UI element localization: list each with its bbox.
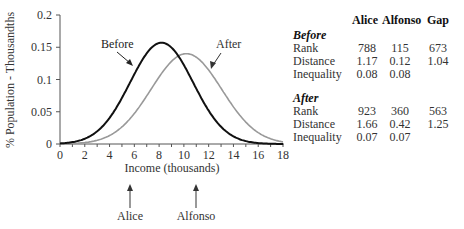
cell-value: 0.07	[380, 130, 420, 145]
cell-value: 1.04	[418, 54, 458, 69]
header-gap: Gap	[427, 13, 449, 28]
row-label: Inequality	[293, 67, 342, 82]
header-alfonso: Alfonso	[382, 13, 421, 28]
cell-value: 1.25	[418, 117, 458, 132]
row-label: Inequality	[293, 130, 342, 145]
comparison-table: Alice Alfonso Gap Before Rank 788 115 67…	[0, 0, 464, 229]
cell-value: 0.08	[380, 67, 420, 82]
header-alice: Alice	[352, 13, 378, 28]
